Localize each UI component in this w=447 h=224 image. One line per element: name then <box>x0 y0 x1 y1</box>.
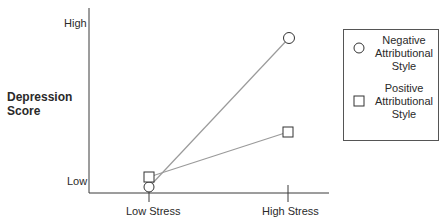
legend-text: Style <box>370 108 438 121</box>
legend-text: Positive <box>370 82 438 95</box>
x-tick-label-low: Low Stress <box>126 205 180 217</box>
square-icon <box>354 96 364 106</box>
y-axis-label-line1: Depression <box>7 90 72 104</box>
square-marker-icon <box>283 127 293 137</box>
square-marker-icon <box>144 172 154 182</box>
y-tick-high: High <box>64 17 87 29</box>
y-axis-label: Depression Score <box>7 90 72 118</box>
legend-text: Attributional <box>370 47 438 60</box>
circle-icon <box>354 43 364 53</box>
negative-style-line <box>149 38 289 187</box>
circle-marker-icon <box>284 33 295 44</box>
circle-marker-icon <box>144 182 154 192</box>
positive-style-line <box>149 132 288 177</box>
legend-text: Attributional <box>370 95 438 108</box>
legend-item-positive: Positive Attributional Style <box>370 82 438 121</box>
legend: Negative Attributional Style Positive At… <box>343 29 439 141</box>
y-tick-low: Low <box>67 175 87 187</box>
y-axis-label-line2: Score <box>7 104 72 118</box>
legend-text: Style <box>370 60 438 73</box>
legend-item-negative: Negative Attributional Style <box>370 34 438 73</box>
x-tick-label-high: High Stress <box>262 205 319 217</box>
legend-text: Negative <box>370 34 438 47</box>
